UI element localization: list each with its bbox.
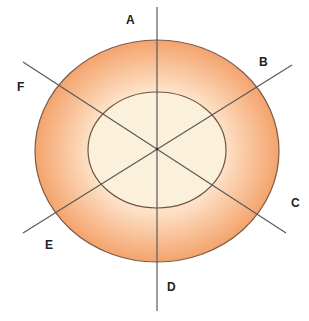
label-e: E bbox=[45, 238, 53, 252]
diagram: A B C D E F bbox=[0, 0, 309, 321]
center-point bbox=[156, 148, 159, 151]
label-c: C bbox=[291, 196, 300, 210]
label-b: B bbox=[259, 55, 268, 69]
label-d: D bbox=[167, 280, 176, 294]
label-a: A bbox=[126, 13, 135, 27]
diagram-graphic bbox=[0, 0, 309, 321]
label-f: F bbox=[17, 80, 24, 94]
